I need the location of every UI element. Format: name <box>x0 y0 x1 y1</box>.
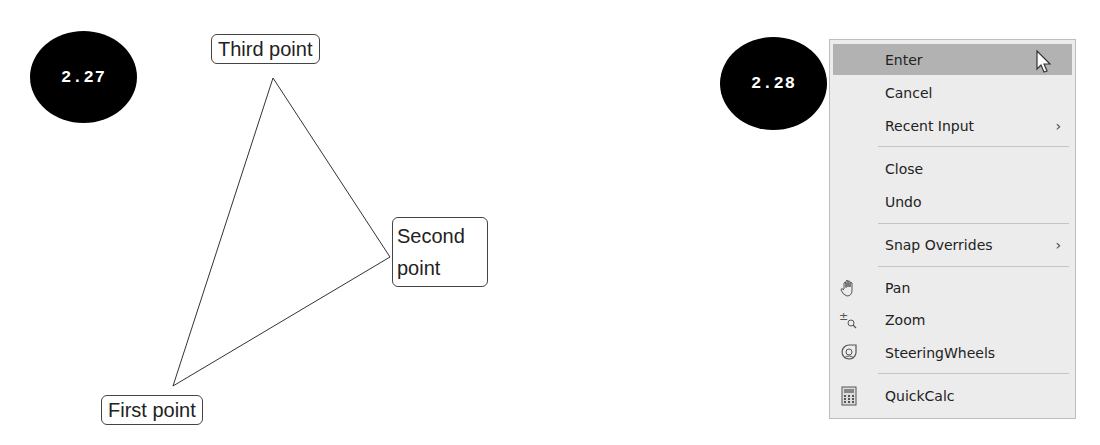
menu-item-label: Undo <box>885 194 922 210</box>
menu-item-label: Pan <box>885 280 910 296</box>
menu-item-pan[interactable]: Pan <box>830 272 1075 304</box>
submenu-arrow-icon: › <box>1055 237 1061 253</box>
menu-item-label: Close <box>885 161 923 177</box>
menu-item-close[interactable]: Close <box>830 153 1075 185</box>
second-point-label-line2: point <box>397 252 483 284</box>
second-point-label: Second point <box>392 217 488 287</box>
menu-item-zoom[interactable]: ± Zoom <box>830 304 1075 336</box>
context-menu: Enter Cancel Recent Input › Close Undo S… <box>829 39 1076 419</box>
menu-item-enter[interactable]: Enter <box>833 44 1072 75</box>
menu-item-label: Cancel <box>885 85 932 101</box>
first-point-label: First point <box>101 395 203 425</box>
menu-item-label: QuickCalc <box>885 388 955 404</box>
submenu-arrow-icon: › <box>1055 118 1061 134</box>
menu-separator <box>878 146 1069 147</box>
mouse-cursor-icon <box>1035 50 1053 74</box>
figure-number-badge: 2.28 <box>720 37 827 130</box>
calculator-icon <box>838 385 860 407</box>
menu-item-recent-input[interactable]: Recent Input › <box>830 110 1075 142</box>
menu-item-snap-overrides[interactable]: Snap Overrides › <box>830 229 1075 261</box>
zoom-icon: ± <box>838 309 860 331</box>
second-point-label-line1: Second <box>397 220 483 252</box>
menu-item-quickcalc[interactable]: QuickCalc <box>830 380 1075 412</box>
menu-separator <box>878 373 1069 374</box>
figure-number: 2.28 <box>751 74 796 93</box>
menu-item-steeringwheels[interactable]: SteeringWheels <box>830 337 1075 369</box>
menu-separator <box>878 223 1069 224</box>
third-point-label: Third point <box>211 34 320 64</box>
menu-item-label: SteeringWheels <box>885 345 995 361</box>
menu-item-label: Recent Input <box>885 118 974 134</box>
menu-item-label: Snap Overrides <box>885 237 993 253</box>
steering-wheels-icon <box>838 342 860 364</box>
menu-item-label: Zoom <box>885 312 925 328</box>
menu-item-undo[interactable]: Undo <box>830 186 1075 218</box>
menu-item-label: Enter <box>885 52 923 68</box>
svg-text:±: ± <box>839 310 848 323</box>
pan-hand-icon <box>838 277 860 299</box>
menu-item-cancel[interactable]: Cancel <box>830 77 1075 109</box>
menu-separator <box>878 266 1069 267</box>
